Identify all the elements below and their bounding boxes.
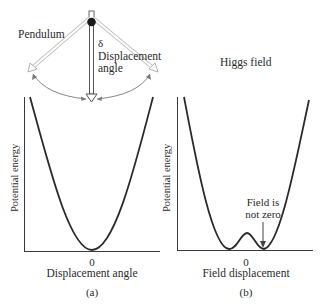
chart-a-x-label: Displacement angle <box>32 267 152 279</box>
pendulum-rest-position-icon <box>86 20 97 102</box>
caption-b: (b) <box>231 286 261 298</box>
pendulum-label: Pendulum <box>18 28 65 40</box>
chart-b-double-well <box>184 97 309 249</box>
displacement-angle-label-line1: Displacement <box>98 50 161 62</box>
chart-b-y-label: Potential energy <box>161 144 172 212</box>
chart-a <box>24 97 160 252</box>
chart-b <box>177 97 313 251</box>
chart-a-y-label: Potential energy <box>9 144 20 212</box>
delta-symbol: δ <box>98 37 103 49</box>
chart-b-x-label: Field displacement <box>186 267 306 279</box>
pendulum-left-position-icon <box>28 18 90 72</box>
chart-a-parabola <box>30 97 153 250</box>
pendulum-bob-icon <box>87 18 96 27</box>
annotation-line1: Field is <box>240 196 286 208</box>
higgs-field-title: Higgs field <box>220 56 271 68</box>
annotation-line2: not zero <box>240 208 286 220</box>
displacement-angle-label-line2: angle <box>98 62 123 74</box>
diagram-canvas <box>0 0 320 308</box>
caption-a: (a) <box>77 286 107 298</box>
